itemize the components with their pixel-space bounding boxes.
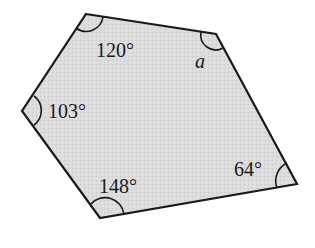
angle-label-bottom: 148° (99, 175, 137, 197)
angle-label-left: 103° (48, 100, 86, 122)
pentagon-diagram: 120° a 64° 148° 103° (0, 0, 315, 248)
angle-label-top-right: a (195, 50, 205, 72)
angle-label-bottom-right: 64° (234, 158, 262, 180)
angle-label-top: 120° (96, 39, 134, 61)
